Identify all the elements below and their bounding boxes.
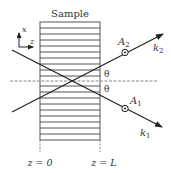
polarization-a2-icon (122, 49, 128, 55)
diagram-canvas: Sample z = 0 z = L A2 A1 k2 k1 θ θ x z (0, 0, 171, 173)
boundary-label-z0: z = 0 (26, 157, 52, 168)
amp-a2-label: A2 (117, 36, 130, 49)
axis-z-label: z (29, 37, 35, 46)
polarization-a1-icon (122, 105, 128, 111)
k1-label: k1 (140, 127, 151, 140)
amp-a1-label: A1 (129, 95, 142, 108)
boundary-label-zL: z = L (90, 157, 116, 168)
sample-label: Sample (51, 8, 89, 19)
k2-label: k2 (153, 42, 164, 55)
axis-x-label: x (22, 25, 27, 34)
theta-lower-label: θ (104, 84, 109, 94)
theta-upper-label: θ (104, 69, 109, 79)
